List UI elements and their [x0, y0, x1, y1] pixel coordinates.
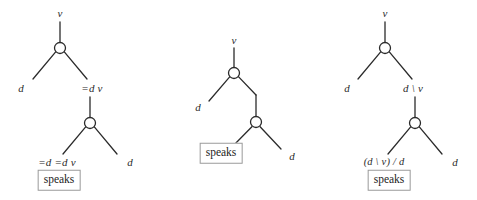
tree-2-terminal-speaks: speaks — [200, 143, 243, 164]
tree-3-lower-left-label: (d \ v) / d — [364, 157, 405, 168]
tree-2-root-left-branch — [209, 77, 230, 101]
tree-3-lower-right-label: d — [452, 157, 458, 168]
tree-3-root-left-branch — [358, 52, 381, 79]
tree-3-root-right-label: d \ v — [403, 83, 423, 94]
tree-3-edges — [358, 22, 442, 154]
tree-3-root-left-label: d — [344, 83, 350, 94]
tree-1-root-left-label: d — [18, 83, 24, 94]
tree-1-lower-node — [85, 118, 96, 129]
tree-3-lower-node — [410, 118, 421, 129]
tree-1-root-right-branch — [64, 52, 87, 79]
tree-2-edges — [209, 48, 281, 149]
tree-2-root-top-label: v — [231, 35, 236, 46]
tree-2-root-right-branch — [238, 76, 256, 95]
tree-3-root-top-label: v — [382, 8, 387, 19]
tree-2-root-left-label: d — [195, 102, 201, 113]
tree-3-root-right-branch — [389, 52, 412, 79]
tree-1-terminal-speaks: speaks — [38, 170, 81, 191]
tree-2-lower-node — [251, 117, 262, 128]
tree-1-root-right-label: =d v — [81, 83, 102, 94]
tree-3-terminal-speaks: speaks — [368, 170, 411, 191]
tree-1-edges — [33, 22, 117, 154]
tree-3-lower-right-branch — [419, 127, 442, 154]
tree-1-root-top-label: v — [57, 8, 62, 19]
tree-2-root-node — [229, 68, 240, 79]
tree-3-root-node — [380, 43, 391, 54]
derivation-trees-figure: v d =d v =d =d v d speaks v d d speaks v… — [0, 0, 477, 200]
tree-2-lower-right-label: d — [289, 151, 295, 162]
tree-1-lower-right-label: d — [127, 157, 133, 168]
tree-1-root-left-branch — [33, 52, 56, 79]
tree-2-lower-right-branch — [260, 127, 281, 149]
tree-1-root-node — [55, 43, 66, 54]
tree-1-lower-left-label: =d =d v — [38, 157, 76, 168]
tree-1-lower-right-branch — [94, 127, 117, 154]
tree-3-lower-left-branch — [388, 127, 411, 154]
tree-1-lower-left-branch — [63, 127, 86, 154]
